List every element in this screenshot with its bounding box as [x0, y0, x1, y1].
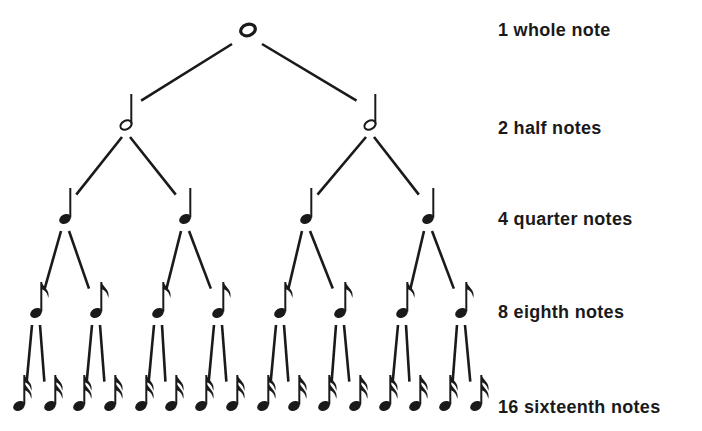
eighth-note-icon [332, 282, 352, 320]
sixteenth-note-icon [11, 375, 31, 413]
sixteenth-note-icon [437, 375, 457, 413]
sixteenth-note-icon [133, 375, 153, 413]
quarter-note-icon [177, 188, 192, 226]
eighth-note-icon [88, 282, 108, 320]
quarter-note-icon [57, 188, 72, 226]
quarter-note-icon [298, 188, 313, 226]
sixteenth-note-icon [193, 375, 213, 413]
sixteenth-note-icon [71, 375, 91, 413]
label-sixteenth-notes: 16 sixteenth notes [498, 397, 660, 418]
whole-note-icon [239, 22, 257, 37]
label-half-notes: 2 half notes [498, 118, 602, 139]
sixteenth-note-icon [255, 375, 275, 413]
sixteenth-note-icon [377, 375, 397, 413]
eighth-note-icon [210, 282, 230, 320]
connector-lines [27, 44, 471, 382]
label-eighth-notes: 8 eighth notes [498, 302, 624, 323]
label-whole-notes: 1 whole note [498, 20, 611, 41]
half-note-icon [363, 94, 378, 132]
sixteenth-note-icon [316, 375, 336, 413]
label-quarter-notes: 4 quarter notes [498, 209, 633, 230]
quarter-note-icon [420, 188, 435, 226]
eighth-note-icon [453, 282, 473, 320]
half-note-icon [119, 94, 134, 132]
